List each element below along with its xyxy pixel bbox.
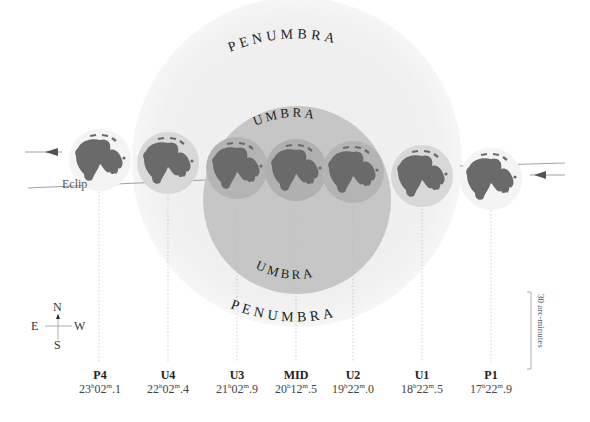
contact-U2: U2 19h22m.0 <box>313 368 393 396</box>
contact-time: 19h22m.0 <box>313 382 393 396</box>
arrow-right-icon <box>534 171 546 179</box>
compass-north: N <box>53 300 62 315</box>
eclipse-diagram: PENUMBRA UMBRA UMBRA PENUMBRA <box>0 0 590 422</box>
contact-P1: P1 17h22m.9 <box>451 368 531 396</box>
contact-time: 18h22m.5 <box>382 382 462 396</box>
contact-name: P1 <box>451 368 531 382</box>
ecliptic-label: Eclip <box>62 177 87 192</box>
scale-bar <box>527 292 531 369</box>
arrow-left-icon <box>45 148 58 156</box>
moon-P1 <box>460 148 522 210</box>
compass-south: S <box>54 338 61 353</box>
contact-name: U2 <box>313 368 393 382</box>
contact-name: U4 <box>128 368 208 382</box>
moon-U2 <box>322 141 384 203</box>
scale-bar-label: 30 arc-minutes <box>536 294 546 348</box>
moon-U3 <box>206 137 268 199</box>
compass-west: W <box>74 319 85 334</box>
moon-U4 <box>137 132 199 194</box>
contact-name: U1 <box>382 368 462 382</box>
compass-east: E <box>31 319 38 334</box>
contact-U1: U1 18h22m.5 <box>382 368 462 396</box>
moon-U1 <box>391 145 453 207</box>
contact-time: 17h22m.9 <box>451 382 531 396</box>
contact-time: 22h02m.4 <box>128 382 208 396</box>
moon-MID <box>265 139 327 201</box>
contact-U4: U4 22h02m.4 <box>128 368 208 396</box>
